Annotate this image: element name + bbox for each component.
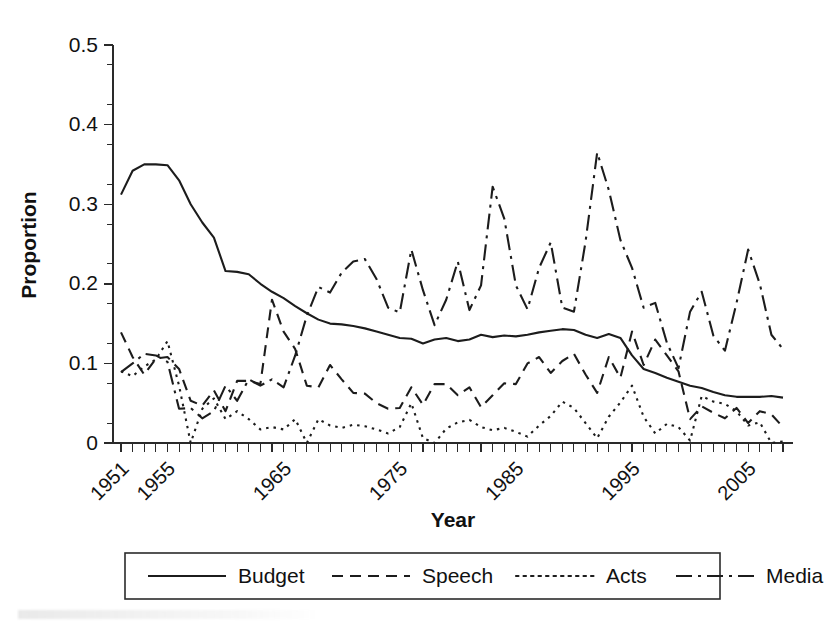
line-chart: 00.10.20.30.40.5 19511955196519751985199… — [0, 0, 828, 623]
y-tick-label: 0.4 — [69, 112, 99, 135]
chart-background — [0, 0, 828, 623]
y-tick-label: 0.3 — [69, 192, 98, 215]
caption-smudge — [18, 610, 318, 619]
legend-label-media: Media — [766, 564, 824, 587]
y-axis-title: Proportion — [17, 191, 40, 298]
figure-container: 00.10.20.30.40.5 19511955196519751985199… — [0, 0, 828, 623]
legend-label-speech: Speech — [422, 564, 493, 587]
y-tick-label: 0.1 — [69, 351, 98, 374]
y-tick-label: 0.5 — [69, 33, 98, 56]
legend-label-acts: Acts — [606, 564, 647, 587]
legend: BudgetSpeechActsMedia — [125, 553, 824, 599]
y-tick-label: 0 — [86, 431, 98, 454]
x-axis-title: Year — [431, 508, 475, 531]
y-tick-label: 0.2 — [69, 271, 98, 294]
legend-label-budget: Budget — [238, 564, 305, 587]
